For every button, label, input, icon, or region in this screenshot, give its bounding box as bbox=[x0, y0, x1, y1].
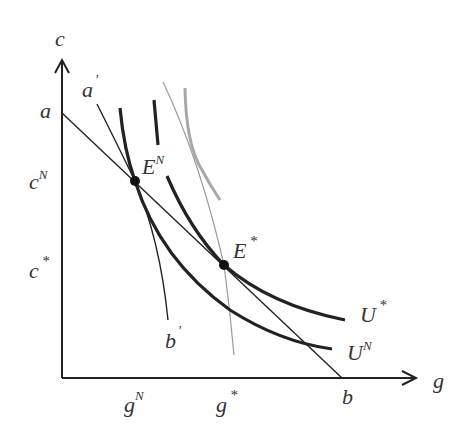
budget-line-ab bbox=[62, 113, 342, 378]
y-tick-cstar: c* bbox=[29, 253, 50, 283]
indifference-curve-ustar-upper-segment bbox=[154, 100, 158, 145]
axes bbox=[55, 60, 416, 385]
indifference-curve-diagram: c g a cN c* gN g* b a' b' EN E* U* UN bbox=[0, 0, 466, 446]
label-a-prime: a' bbox=[82, 73, 99, 102]
label-un: UN bbox=[347, 338, 373, 365]
y-tick-cn: cN bbox=[29, 167, 49, 194]
equilibrium-point-estar bbox=[219, 260, 229, 270]
label-en: EN bbox=[141, 152, 165, 179]
x-axis-label: g bbox=[433, 368, 444, 393]
label-b-prime: b' bbox=[165, 324, 182, 353]
label-estar: E* bbox=[232, 233, 257, 263]
y-axis-label: c bbox=[55, 26, 65, 51]
x-tick-b: b bbox=[342, 384, 353, 409]
label-ustar: U* bbox=[360, 297, 387, 327]
x-tick-gn: gN bbox=[124, 388, 145, 417]
equilibrium-point-en bbox=[130, 176, 140, 186]
y-tick-a: a bbox=[40, 98, 51, 123]
x-tick-gstar: g* bbox=[216, 387, 238, 417]
